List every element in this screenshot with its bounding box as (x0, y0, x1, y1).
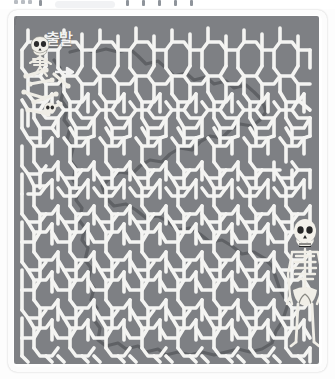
toolbar-icon-8[interactable] (174, 0, 177, 6)
standing-skeleton (282, 216, 319, 348)
toolbar-icon-6[interactable] (142, 0, 145, 6)
toolbar-icon-5[interactable] (126, 0, 129, 6)
bone-pile (20, 68, 76, 124)
toolbar-icon-9[interactable] (190, 0, 193, 6)
maze-puzzle-screen: 출발 (0, 0, 335, 379)
toolbar-search-pill[interactable] (55, 1, 115, 8)
toolbar-right-group[interactable] (126, 0, 193, 5)
toolbar-icon-3[interactable] (28, 0, 32, 4)
app-toolbar[interactable] (0, 0, 335, 9)
toolbar-icon-4[interactable] (39, 0, 42, 6)
toolbar-icon-1[interactable] (14, 0, 18, 4)
toolbar-left-group[interactable] (14, 0, 42, 5)
maze-plate: 출발 (14, 16, 319, 364)
toolbar-icon-2[interactable] (21, 0, 25, 4)
toolbar-icon-7[interactable] (158, 0, 161, 6)
